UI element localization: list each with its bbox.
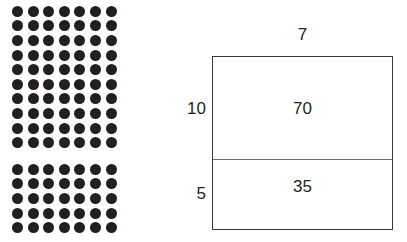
array-dot — [12, 64, 23, 75]
array-dot — [74, 93, 85, 104]
array-dot — [28, 208, 39, 219]
array-dot — [74, 178, 85, 189]
array-dot — [43, 50, 54, 61]
array-dot — [59, 222, 70, 233]
array-dot — [106, 137, 117, 148]
array-dot — [74, 6, 85, 17]
array-dot — [59, 178, 70, 189]
array-dot — [28, 50, 39, 61]
array-dot — [43, 178, 54, 189]
array-dot — [59, 108, 70, 119]
array-dot — [12, 137, 23, 148]
array-dot — [74, 64, 85, 75]
array-dot — [12, 123, 23, 134]
array-dot — [106, 193, 117, 204]
array-dot — [74, 35, 85, 46]
width-label: 7 — [212, 26, 393, 43]
array-dot — [106, 20, 117, 31]
array-dot — [106, 178, 117, 189]
array-dot — [106, 208, 117, 219]
array-dot — [43, 123, 54, 134]
array-dot — [43, 20, 54, 31]
array-dot — [28, 108, 39, 119]
area-model-rectangle: 70 35 — [212, 56, 393, 230]
dot-group-top — [12, 4, 121, 150]
array-dot — [106, 108, 117, 119]
array-dot — [106, 164, 117, 175]
array-dot — [28, 222, 39, 233]
dot-array-panel — [0, 0, 170, 242]
array-dot — [59, 208, 70, 219]
array-dot — [90, 64, 101, 75]
array-dot — [12, 50, 23, 61]
array-dot — [74, 222, 85, 233]
array-dot — [90, 164, 101, 175]
array-dot — [59, 20, 70, 31]
array-dot — [43, 6, 54, 17]
array-dot — [43, 93, 54, 104]
array-dot — [90, 208, 101, 219]
array-dot — [59, 193, 70, 204]
array-dot — [74, 164, 85, 175]
array-dot — [74, 20, 85, 31]
array-dot — [106, 79, 117, 90]
array-dot — [28, 123, 39, 134]
array-dot — [12, 93, 23, 104]
array-dot — [90, 79, 101, 90]
array-dot — [28, 193, 39, 204]
array-dot — [59, 93, 70, 104]
array-dot — [12, 20, 23, 31]
array-dot — [28, 35, 39, 46]
dot-group-bottom — [12, 162, 121, 235]
array-dot — [28, 178, 39, 189]
array-dot — [59, 79, 70, 90]
array-dot — [43, 164, 54, 175]
array-dot — [90, 50, 101, 61]
array-dot — [90, 178, 101, 189]
array-dot — [74, 193, 85, 204]
array-dot — [43, 222, 54, 233]
array-dot — [12, 108, 23, 119]
array-dot — [106, 123, 117, 134]
array-dot — [90, 93, 101, 104]
lower-region-height-label: 5 — [170, 185, 206, 202]
array-dot — [12, 35, 23, 46]
array-dot — [59, 35, 70, 46]
array-dot — [90, 20, 101, 31]
array-dot — [43, 208, 54, 219]
array-dot — [59, 137, 70, 148]
array-dot — [90, 35, 101, 46]
array-dot — [12, 193, 23, 204]
array-dot — [74, 123, 85, 134]
array-dot — [90, 108, 101, 119]
array-dot — [106, 6, 117, 17]
array-dot — [90, 137, 101, 148]
array-dot — [12, 164, 23, 175]
array-dot — [12, 222, 23, 233]
array-dot — [12, 208, 23, 219]
array-dot — [90, 123, 101, 134]
array-dot — [59, 123, 70, 134]
array-dot — [12, 79, 23, 90]
array-dot — [43, 193, 54, 204]
area-model-panel: 7 10 5 70 35 — [170, 0, 407, 242]
array-dot — [90, 193, 101, 204]
array-dot — [74, 137, 85, 148]
array-dot — [59, 164, 70, 175]
array-dot — [43, 108, 54, 119]
array-dot — [28, 164, 39, 175]
array-dot — [106, 222, 117, 233]
array-dot — [90, 6, 101, 17]
array-dot — [59, 64, 70, 75]
array-dot — [12, 178, 23, 189]
array-dot — [28, 79, 39, 90]
upper-region: 70 — [213, 57, 392, 160]
array-dot — [28, 137, 39, 148]
lower-region-area-label: 35 — [293, 178, 312, 195]
array-dot — [90, 222, 101, 233]
lower-region: 35 — [213, 160, 392, 231]
array-dot — [74, 50, 85, 61]
upper-region-area-label: 70 — [293, 100, 312, 117]
array-dot — [28, 20, 39, 31]
array-dot — [28, 64, 39, 75]
